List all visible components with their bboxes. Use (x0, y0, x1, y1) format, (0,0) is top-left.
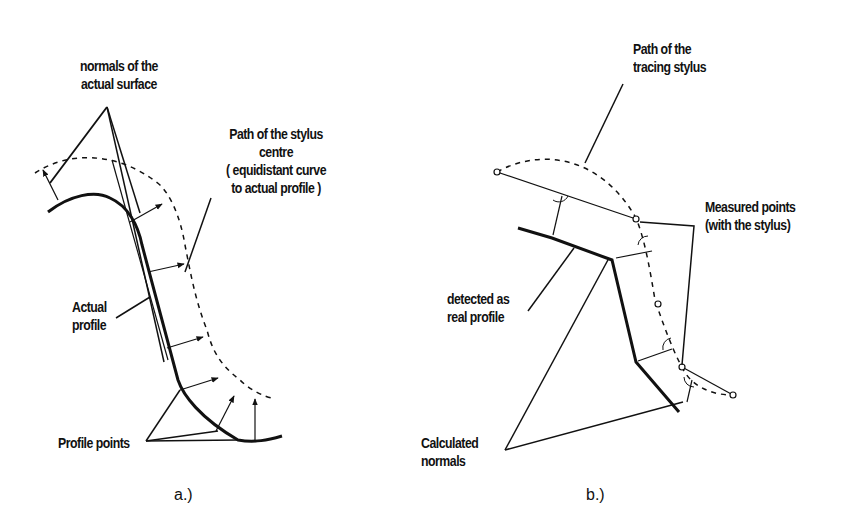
label-actual-profile: Actual profile (72, 298, 107, 334)
label-profile-points: Profile points (58, 434, 130, 452)
label-normals: normals of the actual surface (80, 57, 158, 93)
caption-a: a.) (174, 486, 193, 504)
figure-b (494, 83, 736, 450)
label-detected-profile: detected as real profile (447, 290, 509, 326)
label-tracing-stylus: Path of the tracing stylus (633, 40, 706, 76)
detected-profile-polyline (518, 228, 679, 412)
label-stylus-centre-path: Path of the stylus centre ( equidistant … (226, 125, 326, 197)
label-measured-points: Measured points (with the stylus) (705, 198, 795, 234)
label-calculated-normals: Calculated normals (421, 434, 478, 470)
caption-b: b.) (586, 486, 605, 504)
